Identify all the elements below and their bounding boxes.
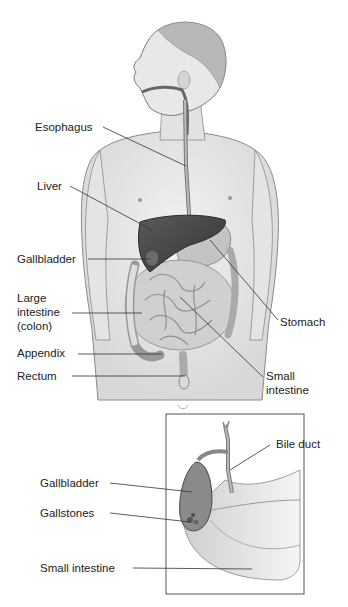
- label-liver: Liver: [37, 179, 62, 193]
- label-small-intestine: Small intestine: [266, 369, 309, 397]
- label-bile-duct: Bile duct: [276, 437, 320, 451]
- label-stomach: Stomach: [280, 315, 325, 329]
- label-esophagus: Esophagus: [35, 120, 93, 134]
- label-large-intestine-line3: (colon): [17, 319, 60, 333]
- label-inset-gallbladder: Gallbladder: [40, 476, 99, 490]
- label-small-intestine-line2: intestine: [266, 383, 309, 397]
- label-gallbladder: Gallbladder: [17, 252, 76, 266]
- label-large-intestine-line1: Large: [17, 291, 60, 305]
- digestive-system-diagram: Esophagus Liver Gallbladder Large intest…: [0, 0, 348, 607]
- label-rectum: Rectum: [17, 369, 57, 383]
- label-appendix: Appendix: [17, 346, 65, 360]
- label-small-intestine-line1: Small: [266, 369, 309, 383]
- label-inset-small-intestine: Small intestine: [40, 561, 115, 575]
- label-large-intestine: Large intestine (colon): [17, 291, 60, 333]
- label-gallstones: Gallstones: [40, 506, 94, 520]
- label-large-intestine-line2: intestine: [17, 305, 60, 319]
